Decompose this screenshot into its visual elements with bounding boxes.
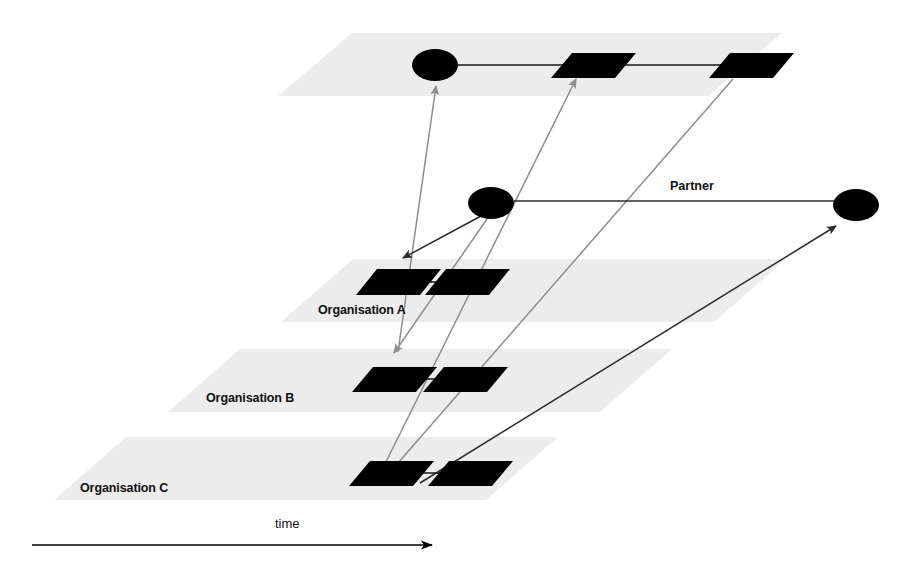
plane-label-organisation-b: Organisation B (206, 391, 294, 405)
node-partner-ellipse[interactable] (833, 189, 879, 221)
node-center-ellipse[interactable] (468, 187, 514, 219)
diagram-canvas: Organisation A Organisation B Organisati… (0, 0, 906, 571)
node-top-ellipse[interactable] (412, 49, 458, 81)
plane-label-organisation-c: Organisation C (80, 481, 168, 495)
architecture-timeline-diagram: Organisation A Organisation B Organisati… (0, 0, 906, 571)
relation-label-partner: Partner (670, 179, 714, 193)
time-axis: time (32, 516, 432, 545)
time-axis-label: time (275, 516, 300, 531)
plane-label-organisation-a: Organisation A (318, 303, 406, 317)
plane-layer (54, 33, 786, 500)
